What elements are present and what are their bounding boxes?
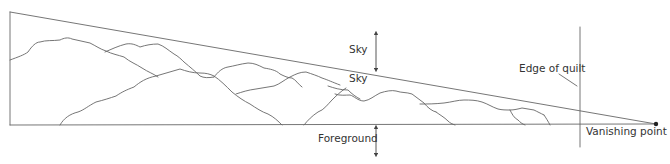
sky-lower-label: Sky <box>349 73 368 84</box>
hill-11 <box>510 110 525 125</box>
foreground-label: Foreground <box>318 133 378 144</box>
hill-3 <box>60 69 282 125</box>
hill-6 <box>304 88 346 125</box>
hill-9 <box>420 100 544 115</box>
hill-4 <box>214 63 302 87</box>
hill-10 <box>436 112 455 125</box>
sky-upper-label: Sky <box>349 44 368 55</box>
edge-of-quilt-label: Edge of quilt <box>519 63 586 74</box>
hill-8 <box>328 86 360 99</box>
hill-7 <box>335 91 436 112</box>
edge-of-quilt-leader <box>559 74 577 86</box>
hill-12 <box>544 115 550 125</box>
hill-1 <box>10 38 158 77</box>
hill-5 <box>236 72 340 94</box>
vanishing-point-label: Vanishing point <box>586 126 667 137</box>
ground-line <box>10 124 656 125</box>
